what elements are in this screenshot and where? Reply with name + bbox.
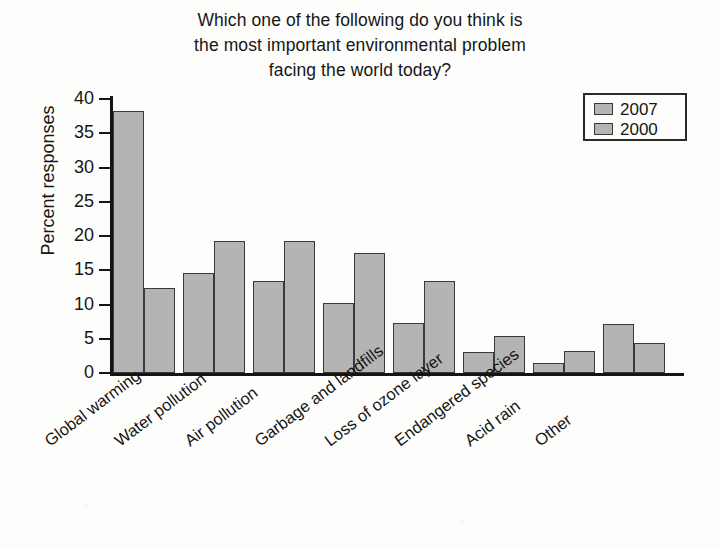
chart-title-line-1: Which one of the following do you think … — [120, 8, 600, 33]
bar-group — [323, 99, 385, 373]
y-tick-10 — [99, 304, 110, 306]
y-tick-label-20: 20 — [60, 226, 94, 244]
y-tick-label-35: 35 — [60, 123, 94, 141]
y-tick-25 — [99, 201, 110, 203]
bar — [634, 343, 665, 373]
bar-group — [183, 99, 245, 373]
y-tick-label-25: 25 — [60, 192, 94, 210]
y-tick-40 — [99, 98, 110, 100]
bar-group — [603, 99, 665, 373]
chart-title-line-3: facing the world today? — [120, 58, 600, 83]
bar — [284, 241, 315, 373]
chart-title-line-2: the most important environmental problem — [120, 33, 600, 58]
y-tick-label-30: 30 — [60, 158, 94, 176]
bar — [533, 363, 564, 373]
y-tick-5 — [99, 338, 110, 340]
x-axis-label: Acid rain — [461, 396, 524, 450]
bar-group — [533, 99, 595, 373]
bar-group — [253, 99, 315, 373]
bar — [253, 281, 284, 373]
y-tick-20 — [99, 235, 110, 237]
bar — [183, 273, 214, 373]
y-tick-label-0: 0 — [60, 363, 94, 381]
y-tick-30 — [99, 167, 110, 169]
bar — [603, 324, 634, 373]
y-axis-title: Percent responses — [38, 71, 59, 291]
y-tick-label-15: 15 — [60, 260, 94, 278]
bar — [564, 351, 595, 373]
y-tick-label-40: 40 — [60, 89, 94, 107]
y-tick-label-10: 10 — [60, 295, 94, 313]
y-tick-label-5: 5 — [60, 329, 94, 347]
chart-figure: Which one of the following do you think … — [0, 0, 722, 549]
bar — [144, 288, 175, 373]
y-tick-15 — [99, 269, 110, 271]
bar — [214, 241, 245, 373]
bar-group — [113, 99, 175, 373]
bar-group — [393, 99, 455, 373]
y-tick-0 — [99, 372, 110, 374]
chart-title: Which one of the following do you think … — [120, 8, 600, 83]
bar-group — [463, 99, 525, 373]
bar — [113, 111, 144, 373]
x-axis-label: Other — [531, 410, 575, 450]
y-tick-35 — [99, 132, 110, 134]
